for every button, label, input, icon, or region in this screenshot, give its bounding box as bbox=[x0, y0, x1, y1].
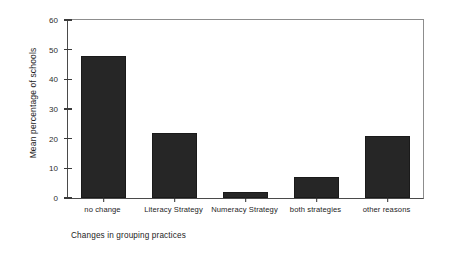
y-axis-tick-label: 60 bbox=[49, 16, 58, 25]
y-axis-tick-40 bbox=[64, 79, 72, 81]
bar bbox=[365, 136, 409, 198]
bar bbox=[294, 177, 338, 198]
bar bbox=[81, 56, 125, 198]
x-axis-tick bbox=[245, 197, 247, 202]
bar bbox=[152, 133, 196, 198]
y-axis-tick-label: 0 bbox=[54, 194, 58, 203]
x-axis-tick bbox=[174, 197, 176, 202]
x-axis-category-label: Literacy Strategy bbox=[144, 205, 203, 214]
y-axis-tick-label: 50 bbox=[49, 45, 58, 54]
y-axis-tick-label: 10 bbox=[49, 164, 58, 173]
y-axis-tick-50 bbox=[64, 49, 72, 51]
x-axis-category-label: both strategies bbox=[290, 205, 341, 214]
x-axis-category-label: Numeracy Strategy bbox=[211, 205, 278, 214]
x-axis-tick bbox=[387, 197, 389, 202]
x-axis-category-label: other reasons bbox=[363, 205, 411, 214]
plot-area: 0102030405060 bbox=[67, 19, 424, 199]
y-axis-tick-label: 40 bbox=[49, 75, 58, 84]
y-axis-tick-0 bbox=[64, 197, 72, 199]
y-axis-tick-label: 20 bbox=[49, 134, 58, 143]
y-axis-tick-label: 30 bbox=[49, 105, 58, 114]
x-axis-title: Changes in grouping practices bbox=[71, 231, 186, 240]
y-axis-tick-30 bbox=[64, 108, 72, 110]
bar-chart-figure: Mean percentage of schools 0102030405060… bbox=[0, 0, 449, 255]
y-axis-tick-20 bbox=[64, 138, 72, 140]
x-axis-tick bbox=[316, 197, 318, 202]
y-axis-title: Mean percentage of schools bbox=[28, 8, 38, 198]
y-axis-tick-60 bbox=[64, 19, 72, 21]
x-axis-category-label: no change bbox=[84, 205, 120, 214]
y-axis-tick-10 bbox=[64, 168, 72, 170]
x-axis-tick bbox=[103, 197, 105, 202]
